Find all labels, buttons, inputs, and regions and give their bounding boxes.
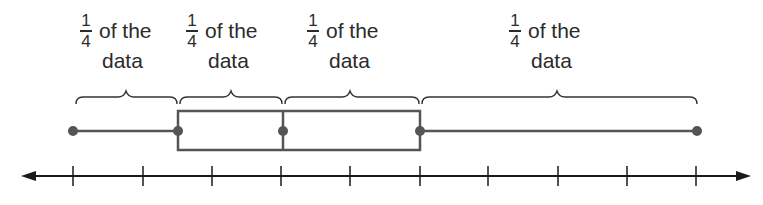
q3-point xyxy=(415,126,425,136)
quartile-braces xyxy=(76,91,697,104)
number-line xyxy=(30,166,742,186)
fraction: 14 xyxy=(307,12,319,50)
left-arrow-icon xyxy=(21,171,36,181)
fraction: 14 xyxy=(80,12,92,50)
quartile-label-1: 14of the data xyxy=(80,12,152,74)
quartile-label-4: 14of the data xyxy=(509,12,581,74)
right-arrow-icon xyxy=(736,171,751,181)
brace-2 xyxy=(180,91,282,104)
fraction: 14 xyxy=(509,12,521,50)
quartile-label-3: 14of the data xyxy=(307,12,379,74)
quartile-label-2: 14of the data xyxy=(186,12,258,74)
fraction: 14 xyxy=(186,12,198,50)
brace-4 xyxy=(422,91,697,104)
brace-1 xyxy=(76,91,177,104)
max-point xyxy=(692,126,702,136)
box-plot xyxy=(73,111,697,150)
brace-3 xyxy=(285,91,419,104)
median-point xyxy=(278,126,288,136)
q1-point xyxy=(173,126,183,136)
min-point xyxy=(68,126,78,136)
box xyxy=(178,111,420,150)
